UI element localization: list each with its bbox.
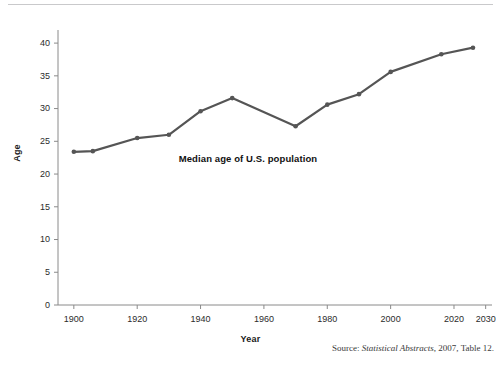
data-point-marker [135,136,140,141]
x-axis-tick-label: 1900 [64,314,84,324]
y-axis-title: Age [12,133,22,173]
y-axis-tick-label: 10 [40,234,50,244]
x-axis-tick-label: 1980 [317,314,337,324]
source-note-suffix: , 2007, Table 12. [434,343,494,353]
data-point-marker [198,109,203,114]
source-note: Source: Statistical Abstracts, 2007, Tab… [332,343,494,353]
data-point-marker [439,52,444,57]
x-axis-tick-label: 1960 [254,314,274,324]
y-axis-tick-label: 35 [40,71,50,81]
y-axis-tick-label: 30 [40,103,50,113]
y-axis-tick-label: 20 [40,169,50,179]
y-axis-tick-label: 25 [40,136,50,146]
data-series-line [74,48,473,152]
source-note-prefix: Source: [332,343,360,353]
data-point-marker [325,102,330,107]
data-point-marker [471,45,476,50]
data-point-marker [388,70,393,75]
data-point-marker [357,92,362,97]
x-axis-tick-label: 2030 [476,314,496,324]
y-axis-tick-label: 5 [45,267,50,277]
x-axis-tick-label: 1920 [127,314,147,324]
data-point-marker [72,149,77,154]
line-chart: 0510152025303540190019201940196019802000… [0,0,501,365]
y-axis-tick-label: 15 [40,202,50,212]
data-point-marker [230,96,235,101]
figure-container: 0510152025303540190019201940196019802000… [0,0,501,365]
x-axis-tick-label: 2000 [381,314,401,324]
chart-title-annotation: Median age of U.S. population [118,153,378,164]
y-axis-tick-label: 0 [45,300,50,310]
data-point-marker [293,124,298,129]
x-axis-tick-label: 2020 [444,314,464,324]
source-note-title: Statistical Abstracts [362,343,434,353]
data-point-marker [167,132,172,137]
data-point-marker [91,149,96,154]
x-axis-tick-label: 1940 [191,314,211,324]
y-axis-tick-label: 40 [40,38,50,48]
